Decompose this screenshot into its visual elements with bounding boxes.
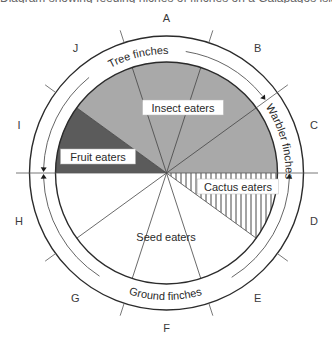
sector-letter-b: B: [254, 42, 261, 54]
insect-eaters-label-text: Insect eaters: [152, 102, 215, 114]
sector-letter-f: F: [163, 322, 170, 334]
sector-tick: [45, 85, 56, 93]
sector-tick: [209, 30, 213, 42]
sector-letter-c: C: [310, 119, 318, 131]
tree-finches-arrowhead: [260, 94, 265, 99]
sector-tick: [277, 254, 288, 262]
cactus-eaters-label: Cactus eaters: [198, 179, 279, 194]
ground-finches-label: Ground finches: [128, 285, 203, 302]
tree-finches-arrowhead-left: [41, 167, 47, 172]
cactus-eaters-label-text: Cactus eaters: [204, 181, 272, 193]
sector-letter-g: G: [71, 292, 80, 304]
sector-tick: [120, 30, 124, 42]
sector-letter-j: J: [73, 42, 79, 54]
sector-letter-h: H: [15, 215, 23, 227]
sector-letter-i: I: [18, 119, 21, 131]
fruit-eaters-label-text: Fruit eaters: [70, 151, 126, 163]
ground-finches-arrowhead-left: [41, 174, 47, 179]
sector-letter-d: D: [310, 215, 318, 227]
insect-eaters-label: Insect eaters: [143, 100, 224, 115]
sector-tick: [209, 303, 213, 315]
seed-eaters-label: Seed eaters: [136, 231, 196, 243]
finch-niche-diagram: ABCDEFGHIJ Tree finchesWarbler finchesGr…: [0, 0, 332, 345]
fruit-eaters-label: Fruit eaters: [61, 149, 136, 164]
sector-letter-a: A: [163, 12, 171, 24]
seed-eaters-label-text: Seed eaters: [136, 231, 196, 243]
sector-tick: [45, 254, 56, 262]
sector-tick: [120, 303, 124, 315]
sector-letter-e: E: [254, 292, 261, 304]
